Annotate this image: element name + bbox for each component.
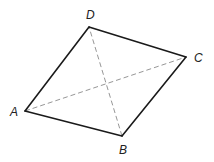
side-bc xyxy=(122,57,186,136)
side-ab xyxy=(25,111,122,136)
side-da xyxy=(25,27,89,111)
diagonal-ac xyxy=(25,57,186,111)
vertex-label-b: B xyxy=(119,143,127,157)
diagonal-bd xyxy=(89,27,122,136)
vertex-label-d: D xyxy=(86,8,95,22)
vertex-label-a: A xyxy=(9,105,18,119)
diagram-svg: A B C D xyxy=(0,0,214,162)
side-cd xyxy=(89,27,186,57)
vertex-label-c: C xyxy=(194,51,203,65)
rhombus-diagram: A B C D xyxy=(0,0,214,162)
